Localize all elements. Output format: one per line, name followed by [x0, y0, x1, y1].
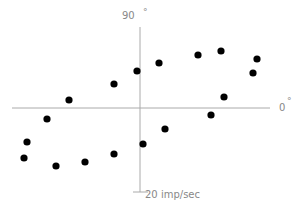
degree-symbol-90: ° — [143, 7, 148, 17]
scatter-plot — [0, 0, 308, 210]
data-point — [20, 154, 27, 161]
data-point — [194, 51, 201, 58]
data-point — [155, 59, 162, 66]
data-point — [43, 115, 50, 122]
data-point — [81, 158, 88, 165]
data-point — [207, 111, 214, 118]
data-point — [110, 80, 117, 87]
data-point — [23, 138, 30, 145]
data-point — [161, 125, 168, 132]
label-90: 90 — [122, 10, 135, 21]
data-point — [65, 96, 72, 103]
scale-label: 20 imp/sec — [145, 189, 200, 200]
data-point — [220, 93, 227, 100]
data-point — [133, 67, 140, 74]
data-point — [249, 69, 256, 76]
label-0: 0 — [279, 102, 285, 113]
data-point — [217, 47, 224, 54]
data-point — [52, 162, 59, 169]
data-point — [139, 140, 146, 147]
data-point — [110, 150, 117, 157]
data-point — [253, 55, 260, 62]
degree-symbol-0: ° — [287, 96, 292, 106]
